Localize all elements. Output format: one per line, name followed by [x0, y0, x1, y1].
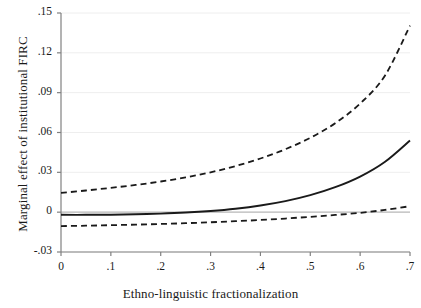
axis-ticks — [57, 13, 410, 256]
series-marginal-effect — [61, 140, 410, 214]
x-tick-label: .3 — [196, 260, 226, 272]
x-tick-label: .6 — [345, 260, 375, 272]
x-tick-label: .1 — [96, 260, 126, 272]
x-axis-title: Ethno-linguistic fractionalization — [0, 286, 421, 302]
x-tick-label: .2 — [146, 260, 176, 272]
x-tick-label: .5 — [295, 260, 325, 272]
x-tick-label: .7 — [395, 260, 421, 272]
gridlines — [61, 13, 410, 252]
data-series — [61, 26, 410, 227]
y-axis-title: Marginal effect of institutional FIRC — [15, 9, 31, 259]
series-upper-confidence-bound — [61, 26, 410, 193]
x-tick-label: 0 — [46, 260, 76, 272]
chart-figure: -.030.03.06.09.12.15 0.1.2.3.4.5.6.7 Mar… — [0, 0, 421, 308]
x-tick-label: .4 — [245, 260, 275, 272]
